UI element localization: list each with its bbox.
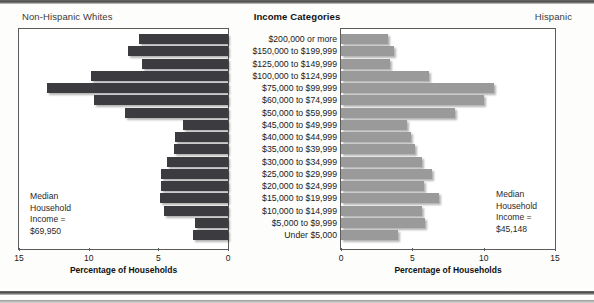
x-axis-title-left: Percentage of Households [18,265,229,275]
top-rule [0,0,594,4]
bar [341,71,429,81]
bar [183,120,228,130]
axis-tick-mark [412,248,413,251]
axis-tick-label: 10 [84,253,93,263]
bar [341,144,415,154]
category-label: $30,000 to $34,999 [231,156,339,168]
axis-tick-mark [228,248,229,251]
axis-tick-label: 10 [479,253,488,263]
category-label: $200,000 or more [231,33,339,45]
bar [125,108,228,118]
category-label: $10,000 to $14,999 [231,205,339,217]
median-left-line3: Income = [30,214,71,226]
bar [161,169,228,179]
bar [341,230,398,240]
bar [160,193,228,203]
bar [195,218,228,228]
axis-tick-label: 0 [226,253,231,263]
category-label: $35,000 to $39,999 [231,143,339,155]
bar [341,132,411,142]
bar [164,206,228,216]
median-annotation-right: Median Household Income = $45,148 [496,189,537,235]
median-right-line2: Household [496,201,537,213]
bottom-rule [0,291,594,295]
bar [139,34,228,44]
median-right-line3: Income = [496,212,537,224]
bar [341,193,439,203]
bar [128,46,228,56]
category-label: $50,000 to $59,999 [231,107,339,119]
axis-tick-label: 0 [339,253,344,263]
bar [341,120,407,130]
median-left-line1: Median [30,191,71,203]
bar [341,95,484,105]
axis-tick-label: 5 [156,253,161,263]
median-right-line4: $45,148 [496,224,537,236]
category-label: $60,000 to $74,999 [231,94,339,106]
bar [341,169,432,179]
bar [341,46,394,56]
category-label: $15,000 to $19,999 [231,192,339,204]
axis-tick-label: 15 [550,253,559,263]
header-label-right: Hispanic [535,11,572,22]
median-left-line4: $69,950 [30,226,71,238]
category-label-list: $200,000 or more$150,000 to $199,999$125… [231,33,339,241]
bar [341,83,494,93]
axis-tick-label: 15 [14,253,23,263]
bar [161,181,228,191]
bar [341,108,455,118]
category-label: $40,000 to $44,999 [231,131,339,143]
bar [142,59,228,69]
median-annotation-left: Median Household Income = $69,950 [30,191,71,237]
axis-tick-mark [19,248,20,251]
category-label: $20,000 to $24,999 [231,180,339,192]
bar [94,95,228,105]
figure-root: Non-Hispanic Whites Income Categories Hi… [0,0,594,303]
bar [91,71,228,81]
bar [341,34,388,44]
median-right-line1: Median [496,189,537,201]
category-label: $45,000 to $49,999 [231,119,339,131]
header-label-center: Income Categories [0,11,594,22]
bar [167,157,228,167]
bar [174,144,228,154]
category-label: $5,000 to $9,999 [231,217,339,229]
axis-tick-mark [484,248,485,251]
bar [175,132,228,142]
axis-tick-mark [341,248,342,251]
bar [341,59,390,69]
category-label: $100,000 to $124,999 [231,70,339,82]
bar [341,206,422,216]
bar [341,181,424,191]
x-axis-title-right: Percentage of Households [340,265,556,275]
bar [47,83,228,93]
category-label: $25,000 to $29,999 [231,168,339,180]
category-label: $125,000 to $149,999 [231,58,339,70]
bar [193,230,228,240]
category-label: Under $5,000 [231,229,339,241]
category-label: $150,000 to $199,999 [231,45,339,57]
axis-tick-mark [158,248,159,251]
bar [341,218,425,228]
axis-tick-mark [89,248,90,251]
category-label: $75,000 to $99,999 [231,82,339,94]
axis-tick-label: 5 [410,253,415,263]
median-left-line2: Household [30,203,71,215]
axis-tick-mark [555,248,556,251]
bar [341,157,422,167]
